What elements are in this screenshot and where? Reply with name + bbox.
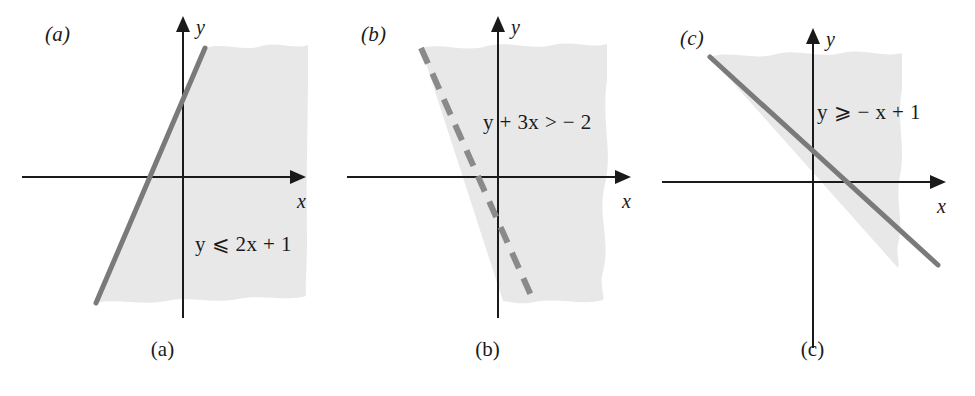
panel-c: y x (c) y ⩾ − x + 1 (c) — [650, 0, 975, 396]
panel-tag-c: (c) — [680, 26, 704, 51]
y-axis-label-a: y — [194, 16, 205, 39]
panel-a: y x (a) y ⩽ 2x + 1 (a) — [0, 0, 325, 396]
panel-caption-b: (b) — [325, 337, 650, 362]
x-axis-label-a: x — [296, 190, 306, 212]
equation-label-a: y ⩽ 2x + 1 — [195, 232, 292, 257]
equation-label-c: y ⩾ − x + 1 — [817, 100, 921, 125]
y-axis-label-c: y — [824, 28, 835, 51]
equation-label-b: y + 3x > − 2 — [483, 110, 592, 135]
inequality-figure: y x (a) y ⩽ 2x + 1 (a) y x — [0, 0, 975, 396]
shaded-region-a — [96, 44, 308, 303]
panel-tag-b: (b) — [361, 22, 386, 47]
panel-tag-a: (a) — [45, 22, 70, 47]
panel-b: y x (b) y + 3x > − 2 (b) — [325, 0, 650, 396]
panel-caption-a: (a) — [0, 337, 325, 362]
y-axis-label-b: y — [509, 16, 520, 39]
x-axis-label-b: x — [621, 190, 631, 212]
x-axis-c — [662, 175, 946, 189]
panel-caption-c: (c) — [650, 337, 975, 362]
x-axis-label-c: x — [936, 195, 946, 217]
